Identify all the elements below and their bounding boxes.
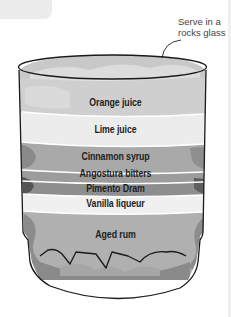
layer-label-angostura-bitters: Angostura bitters: [14, 168, 217, 179]
layer-label-orange-juice: Orange juice: [14, 97, 217, 108]
layer-label-aged-rum: Aged rum: [14, 229, 217, 240]
layer-label-vanilla-liqueur: Vanilla liqueur: [14, 198, 217, 209]
layer-label-pimento-dram: Pimento Dram: [14, 183, 217, 194]
callout-line-2: rocks glass: [178, 27, 228, 38]
callout-line-1: Serve in a: [178, 16, 228, 27]
serve-callout: Serve in a rocks glass: [178, 16, 228, 38]
callout-leader: [162, 40, 181, 58]
layer-label-cinnamon-syrup: Cinnamon syrup: [14, 151, 217, 162]
layer-label-lime-juice: Lime juice: [14, 124, 217, 135]
